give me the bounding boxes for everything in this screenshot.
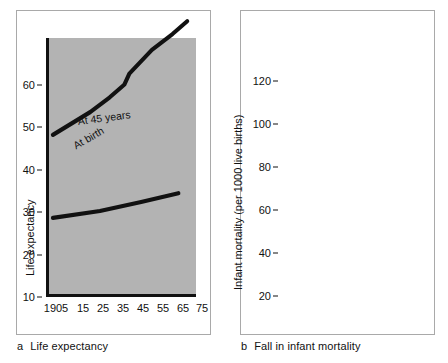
chart-b-y-axis-title: Infant mortality (per 1000 live births) (232, 115, 244, 290)
chart-a-line-at-45-years (53, 193, 178, 218)
chart-a-caption: aLife expectancy (17, 340, 108, 352)
chart-b-ytick-80: 80 (236, 162, 278, 173)
chart-a-xtick-25: 25 (97, 303, 109, 314)
panel-infant-mortality: Infant mortality (per 1000 live births) … (224, 0, 448, 363)
chart-a-ytick-50: 50 (18, 122, 42, 133)
chart-a-xtick-15: 15 (77, 303, 89, 314)
chart-a-xtick-35: 35 (117, 303, 129, 314)
chart-b-ytick-100: 100 (236, 119, 278, 130)
chart-b-ytick-20: 20 (236, 291, 278, 302)
chart-a-xtick-75: 75 (196, 303, 208, 314)
chart-a-caption-letter: a (17, 340, 23, 352)
chart-a-ytick-30: 30 (18, 207, 42, 218)
chart-a-caption-text: Life expectancy (30, 340, 108, 352)
chart-a-ytick-20: 20 (18, 250, 42, 261)
chart-b-caption-text: Fall in infant mortality (254, 340, 360, 352)
chart-a-ytick-10: 10 (18, 292, 42, 303)
chart-b-ytick-60: 60 (236, 205, 278, 216)
chart-b-ytick-40: 40 (236, 248, 278, 259)
chart-b-caption: bFall in infant mortality (241, 340, 361, 352)
panel-life-expectancy: Life expectancy 10 20 30 40 50 60 At bir… (0, 0, 224, 363)
chart-a-plot-area: At birth At 45 years (46, 38, 196, 297)
chart-a-ytick-60: 60 (18, 80, 42, 91)
chart-b-ytick-120: 120 (236, 76, 278, 87)
chart-b-caption-letter: b (241, 340, 247, 352)
chart-a-xtick-65: 65 (177, 303, 189, 314)
chart-a-xtick-1905: 1905 (44, 303, 68, 314)
figure-two-panel-charts: Life expectancy 10 20 30 40 50 60 At bir… (0, 0, 448, 363)
panel-b-frame (240, 10, 435, 335)
chart-a-xtick-55: 55 (157, 303, 169, 314)
chart-a-ytick-40: 40 (18, 165, 42, 176)
chart-a-xtick-45: 45 (137, 303, 149, 314)
chart-a-series-svg (49, 38, 196, 294)
